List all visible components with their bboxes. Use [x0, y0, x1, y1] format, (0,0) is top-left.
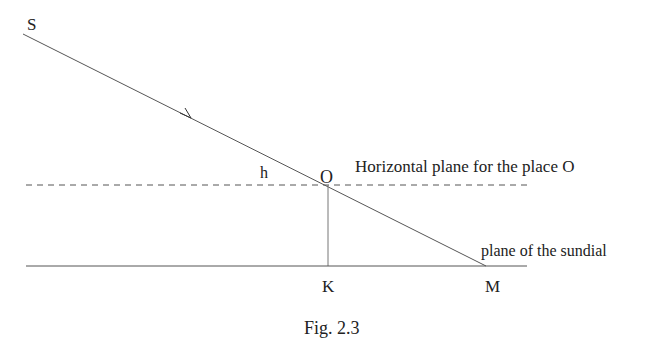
label-O: O: [320, 167, 333, 187]
label-M: M: [485, 277, 500, 296]
sundial-diagram: S h O Horizontal plane for the place O p…: [0, 0, 657, 353]
label-S: S: [27, 15, 36, 34]
sun-ray-line: [23, 34, 486, 266]
label-K: K: [322, 277, 335, 296]
figure-caption: Fig. 2.3: [304, 318, 360, 338]
label-horizontal-plane: Horizontal plane for the place O: [355, 157, 575, 176]
label-h: h: [260, 164, 268, 181]
label-sundial-plane: plane of the sundial: [481, 242, 607, 260]
